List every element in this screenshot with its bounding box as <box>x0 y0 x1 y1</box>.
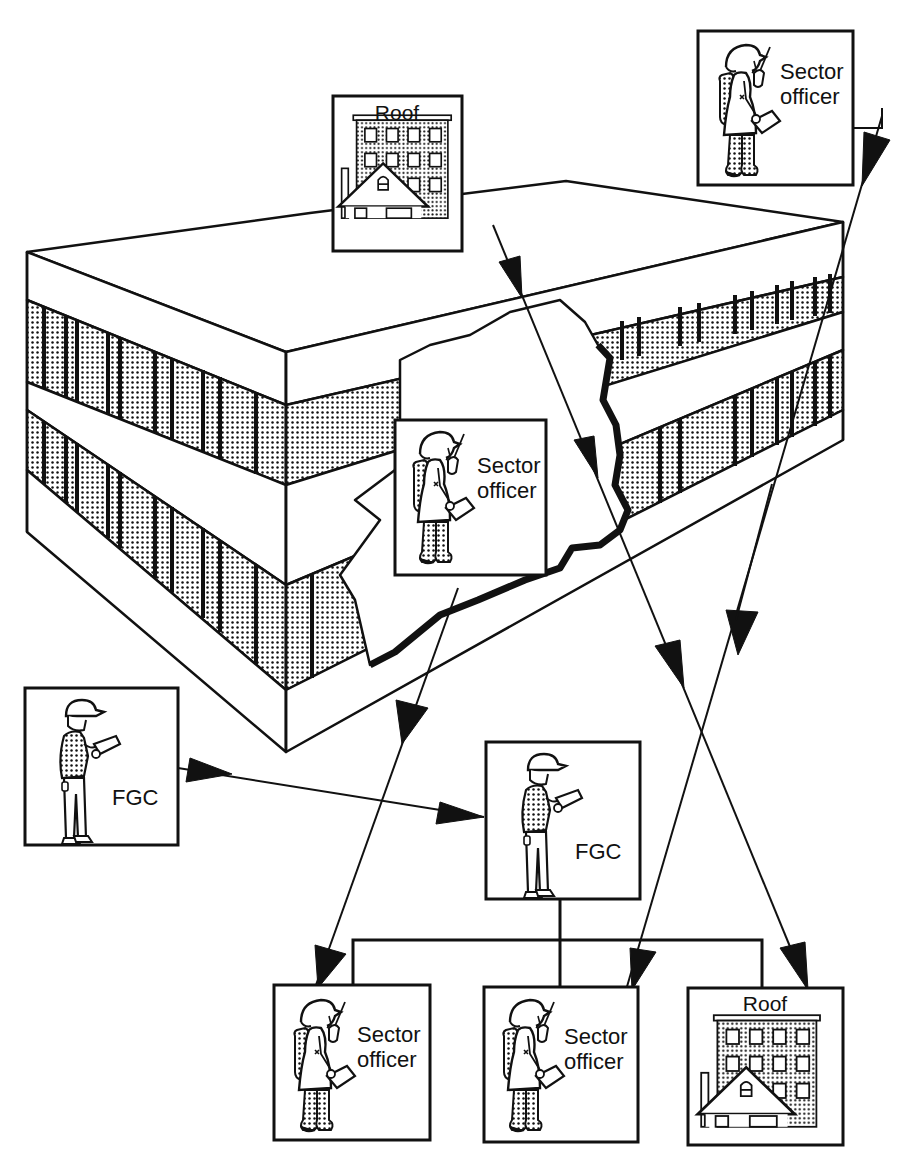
node-fgc-center[interactable]: FGC <box>486 742 640 899</box>
sector-inside-label-1: Sector <box>477 453 541 478</box>
roof-top-label: Roof <box>375 101 420 124</box>
fgc-left-label: FGC <box>112 785 159 810</box>
node-sector-officer-top-right[interactable]: Sector officer <box>698 31 853 185</box>
roof-bottom-label: Roof <box>743 992 788 1015</box>
sector-bottom-mid-label-1: Sector <box>564 1024 628 1049</box>
sector-inside-label-2: officer <box>477 478 537 503</box>
org-tree-connectors <box>353 899 762 987</box>
sector-bottom-left-label-2: officer <box>357 1047 417 1072</box>
sector-top-right-label-1: Sector <box>780 59 844 84</box>
node-sector-officer-bottom-middle[interactable]: Sector officer <box>484 987 638 1142</box>
node-fgc-left[interactable]: FGC <box>25 688 178 845</box>
node-roof-top[interactable]: Roof <box>333 96 462 251</box>
node-roof-bottom-right[interactable]: Roof <box>688 988 843 1145</box>
sector-bottom-mid-label-2: officer <box>564 1049 624 1074</box>
node-sector-officer-inside[interactable]: Sector officer <box>395 420 546 575</box>
sector-top-right-label-2: officer <box>780 84 840 109</box>
fireground-communication-diagram: Roof Sector officer Sector officer FGC F… <box>0 0 911 1168</box>
sector-bottom-left-label-1: Sector <box>357 1022 421 1047</box>
node-sector-officer-bottom-left[interactable]: Sector officer <box>274 985 430 1140</box>
fgc-center-label: FGC <box>575 839 622 864</box>
